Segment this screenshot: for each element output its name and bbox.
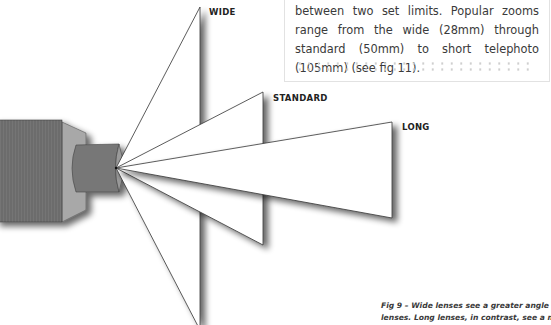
caption-line-1: Fig 9 – Wide lenses see a greater angle …: [381, 300, 551, 312]
dotted-divider: [295, 62, 533, 65]
figure-caption: Fig 9 – Wide lenses see a greater angle …: [381, 300, 551, 323]
camera-icon: [0, 120, 123, 222]
dotted-divider: [295, 68, 533, 71]
lens-focal-point: [115, 167, 117, 169]
body-text-box: between two set limits. Popular zooms ra…: [284, 0, 550, 82]
long-label: LONG: [402, 122, 430, 132]
lens-barrel: [72, 144, 119, 192]
body-text: between two set limits. Popular zooms ra…: [285, 0, 549, 78]
camera-body: [0, 120, 62, 222]
wide-label: WIDE: [209, 7, 236, 17]
caption-line-2: lenses. Long lenses, in contrast, see a …: [381, 312, 551, 324]
standard-label: STANDARD: [273, 93, 328, 103]
